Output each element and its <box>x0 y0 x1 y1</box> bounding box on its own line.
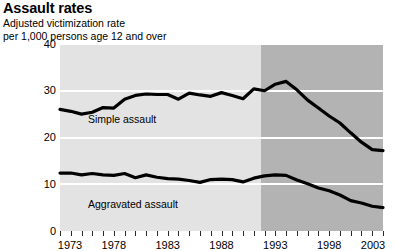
x-axis-tick-label: 1998 <box>317 239 341 251</box>
assault-rates-chart: Assault rates Adjusted victimization rat… <box>0 0 396 251</box>
x-axis-tick <box>114 231 115 236</box>
x-axis-tick <box>71 231 72 236</box>
x-axis-tick <box>178 231 179 236</box>
x-axis-tick <box>211 231 212 236</box>
x-axis: 1973197819831988199319982003 <box>60 231 383 251</box>
x-axis-tick-label: 1973 <box>58 239 82 251</box>
x-axis-tick <box>254 231 255 236</box>
x-axis-tick <box>125 231 126 236</box>
x-axis-tick <box>243 231 244 236</box>
x-axis-tick <box>329 231 330 236</box>
x-axis-tick <box>383 231 384 236</box>
x-axis-tick-label: 1983 <box>155 239 179 251</box>
x-axis-tick <box>82 231 83 236</box>
page-title: Assault rates <box>3 1 92 16</box>
x-axis-tick-label: 1988 <box>209 239 233 251</box>
x-axis-tick <box>222 231 223 236</box>
x-axis-tick <box>146 231 147 236</box>
x-axis-tick <box>340 231 341 236</box>
y-axis: 010203040 <box>0 44 56 231</box>
x-axis-tick <box>232 231 233 236</box>
x-axis-tick <box>308 231 309 236</box>
x-axis-tick <box>168 231 169 236</box>
x-axis-tick <box>265 231 266 236</box>
series-label-simple-assault: Simple assault <box>88 113 156 125</box>
y-axis-tick-label: 40 <box>2 39 56 50</box>
x-axis-tick <box>200 231 201 236</box>
x-axis-tick <box>103 231 104 236</box>
x-axis-tick-label: 2003 <box>361 239 385 251</box>
plot-area: Simple assault Aggravated assault <box>60 44 383 231</box>
y-axis-tick-label: 0 <box>2 226 56 237</box>
x-axis-tick <box>60 231 61 236</box>
y-axis-tick-label: 10 <box>2 179 56 190</box>
x-axis-tick <box>351 231 352 236</box>
series-label-aggravated-assault: Aggravated assault <box>88 198 178 210</box>
y-axis-tick-label: 20 <box>2 132 56 143</box>
x-axis-tick-label: 1993 <box>263 239 287 251</box>
x-axis-tick-label: 1978 <box>102 239 126 251</box>
x-axis-tick <box>361 231 362 236</box>
x-axis-tick <box>318 231 319 236</box>
x-axis-tick <box>157 231 158 236</box>
x-axis-tick <box>92 231 93 236</box>
x-axis-tick <box>286 231 287 236</box>
x-axis-tick <box>275 231 276 236</box>
x-axis-tick <box>189 231 190 236</box>
chart-subtitle-line1: Adjusted victimization rate <box>3 17 125 29</box>
x-axis-tick <box>135 231 136 236</box>
x-axis-tick <box>372 231 373 236</box>
y-axis-tick-label: 30 <box>2 85 56 96</box>
x-axis-tick <box>297 231 298 236</box>
